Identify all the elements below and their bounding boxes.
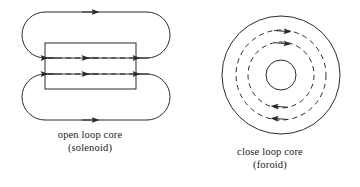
core-right-entry-arrows: [136, 58, 149, 74]
toroid-outer-circle: [222, 16, 340, 134]
solenoid-diagram: [0, 0, 180, 130]
toroid-diagram: [180, 0, 360, 145]
toroid-inner-circle: [266, 60, 296, 90]
caption-close-loop-core: close loop core (foroid): [180, 145, 360, 171]
figure-root: open loop core (solenoid): [0, 0, 360, 187]
caption-line-2: (solenoid): [0, 141, 180, 154]
lower-field-loop: [22, 74, 170, 120]
caption-line-1: close loop core: [180, 145, 360, 158]
toroid-field-line-middle: [248, 42, 314, 108]
caption-open-loop-core: open loop core (solenoid): [0, 128, 180, 154]
panel-close-loop-core: close loop core (foroid): [180, 0, 360, 187]
solenoid-core-rectangle: [45, 43, 136, 89]
panel-open-loop-core: open loop core (solenoid): [0, 0, 180, 187]
upper-field-loop: [22, 12, 170, 58]
caption-line-1: open loop core: [0, 128, 180, 141]
core-left-exit-arrows: [44, 58, 57, 74]
caption-line-2: (foroid): [180, 158, 360, 171]
